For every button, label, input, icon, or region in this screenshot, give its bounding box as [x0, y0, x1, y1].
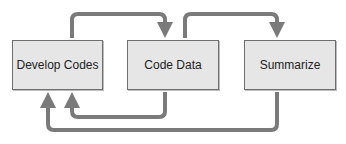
arrow-summarize-to-develop [48, 92, 277, 130]
node-label: Summarize [260, 58, 321, 72]
diagram-canvas: Develop Codes Code Data Summarize [0, 0, 346, 144]
arrow-develop-to-code [72, 14, 165, 38]
node-summarize: Summarize [244, 40, 336, 90]
arrow-code-to-summarize [185, 14, 277, 38]
node-label: Develop Codes [16, 58, 98, 72]
node-label: Code Data [144, 58, 201, 72]
node-code-data: Code Data [127, 40, 219, 90]
node-develop-codes: Develop Codes [12, 40, 103, 90]
arrow-code-to-develop [72, 92, 165, 117]
